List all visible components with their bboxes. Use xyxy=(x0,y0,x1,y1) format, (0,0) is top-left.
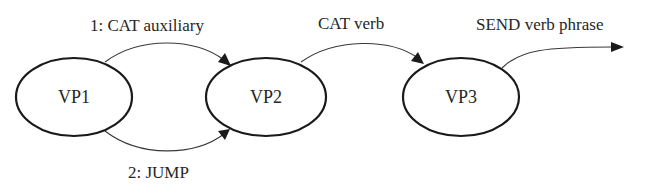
edge-label-cat-auxiliary: 1: CAT auxiliary xyxy=(90,16,204,35)
edge-line xyxy=(105,43,224,62)
arrowhead-icon xyxy=(611,42,624,52)
node-vp2: VP2 xyxy=(206,58,326,136)
edge-label-jump: 2: JUMP xyxy=(128,163,189,182)
node-label-vp1: VP1 xyxy=(58,87,90,107)
edge-label-cat-verb: CAT verb xyxy=(318,14,384,33)
arrowhead-icon xyxy=(411,52,424,64)
edge-vp2-vp3-cat-verb: CAT verb xyxy=(301,14,424,64)
edge-vp1-vp2-cat-auxiliary: 1: CAT auxiliary xyxy=(90,16,231,66)
network-diagram: 1: CAT auxiliary 2: JUMP CAT verb SEND v… xyxy=(0,0,660,189)
edge-label-send-verb-phrase: SEND verb phrase xyxy=(476,15,603,34)
node-label-vp2: VP2 xyxy=(250,87,282,107)
arrowhead-icon xyxy=(218,53,231,66)
node-vp3: VP3 xyxy=(403,58,519,136)
node-label-vp3: VP3 xyxy=(445,87,477,107)
edge-vp1-vp2-jump: 2: JUMP xyxy=(105,129,230,182)
edge-line xyxy=(502,47,612,68)
edge-line xyxy=(105,131,224,151)
edge-vp3-send-verb-phrase: SEND verb phrase xyxy=(476,15,624,68)
node-vp1: VP1 xyxy=(16,58,132,136)
edge-line xyxy=(301,43,418,62)
arrowhead-icon xyxy=(218,129,230,140)
